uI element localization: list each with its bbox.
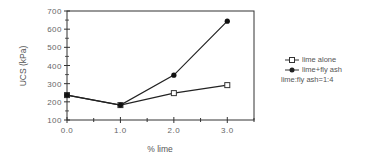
y-tick-label: 500 — [47, 43, 62, 52]
series-line — [67, 21, 227, 105]
plot-frame — [67, 11, 254, 120]
legend-label: lime alone — [302, 55, 336, 65]
y-tick-label: 100 — [47, 116, 62, 125]
legend-label: lime+fly ash — [302, 65, 342, 75]
y-tick-label: 200 — [47, 98, 62, 107]
legend-item-lime-alone: lime alone — [285, 55, 342, 65]
filled-circle-icon — [285, 66, 299, 74]
filled-circle-marker — [225, 19, 230, 24]
x-tick-label: 1.0 — [114, 126, 127, 135]
y-tick-label: 600 — [47, 25, 62, 34]
y-tick-label: 400 — [47, 62, 62, 71]
x-tick-label: 3.0 — [221, 126, 234, 135]
y-axis-title: UCS (kPa) — [18, 46, 28, 87]
series-line — [67, 85, 227, 105]
y-tick-label: 300 — [47, 80, 62, 89]
x-tick-label: 2.0 — [168, 126, 181, 135]
x-axis-title: % lime — [147, 144, 173, 154]
open-square-marker — [171, 91, 176, 96]
legend-item-lime-fly-ash: lime+fly ash — [285, 65, 342, 75]
ratio-annotation: lime:fly ash=1:4 — [281, 75, 342, 85]
open-square-icon — [285, 56, 299, 64]
filled-circle-marker — [171, 73, 176, 78]
open-square-marker — [225, 83, 230, 88]
y-tick-label: 700 — [47, 7, 62, 16]
x-tick-label: 0.0 — [61, 126, 74, 135]
filled-circle-marker — [118, 103, 123, 108]
filled-circle-marker — [64, 93, 69, 98]
legend: lime alone lime+fly ash lime:fly ash=1:4 — [285, 55, 342, 85]
